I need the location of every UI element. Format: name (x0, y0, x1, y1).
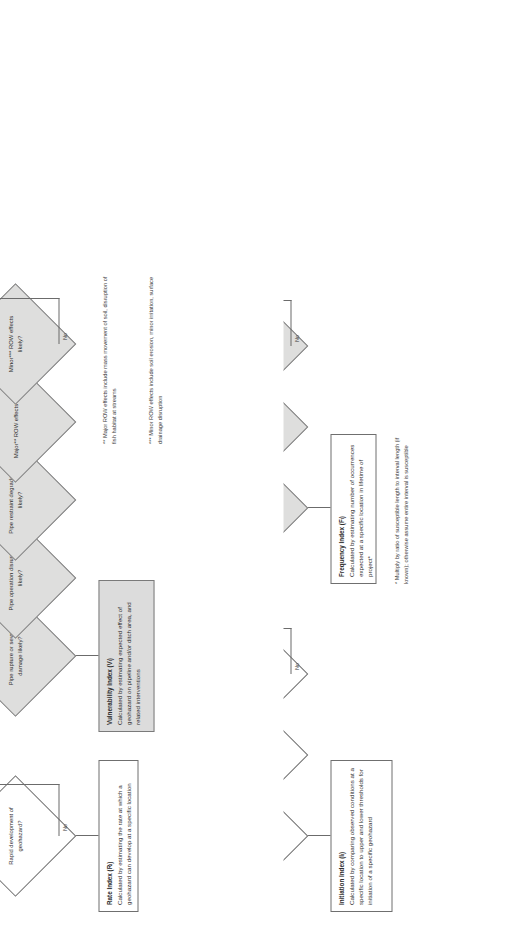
connector-i-d3-no-h (290, 628, 291, 674)
rate-index-title: Rate Index (Rₗ) (104, 767, 113, 905)
frequency-index-description: Calculated by estimating number of occur… (347, 441, 374, 577)
frequency-footnote: * Multiply by ratio of susceptible lengt… (392, 434, 409, 584)
connector-r-d1-no-h (58, 784, 59, 836)
column-vulnerability: Vulnerability Index (Vₗ) Calculated by e… (0, 0, 283, 744)
connector-v-d5-no-h (58, 298, 59, 344)
connector-f-d3-no-h (290, 300, 291, 346)
rate-index-box-main: Rate Index (Rₗ) Calculated by estimating… (98, 760, 138, 912)
rate-index-description: Calculated by estimating the rate at whi… (115, 767, 133, 905)
frequency-index-box: Frequency Index (Fₗ) Calculated by estim… (330, 434, 376, 584)
diagram-frame: Initiation Index (Iₗ) Calculated by comp… (0, 0, 515, 926)
vulnerability-index-title: Vulnerability Index (Vₗ) (104, 587, 113, 725)
connector-v-d5-no-v (0, 298, 59, 299)
vulnerability-index-description: Calculated by estimating expected effect… (115, 587, 142, 725)
edge-label-i-d3-no: No (293, 663, 299, 670)
decision-rapid-development[interactable] (0, 775, 76, 897)
edge-label-r-d1-no: No (61, 824, 67, 831)
flowchart-canvas-rate-vuln: Rate Index (Rₗ) Calculated by estimating… (0, 0, 283, 926)
frequency-index-title: Frequency Index (Fₗ) (336, 441, 345, 577)
connector-r-d1-no-v (0, 784, 59, 785)
edge-label-v-d5-no: No (61, 333, 67, 340)
vulnerability-index-box: Vulnerability Index (Vₗ) Calculated by e… (98, 580, 154, 732)
vulnerability-footnote-major: ** Major ROW effects include mass moveme… (100, 276, 117, 444)
edge-label-f-d3-no: No (293, 335, 299, 342)
vulnerability-footnote-minor: *** Minor ROW effects include soil erosi… (146, 276, 163, 444)
